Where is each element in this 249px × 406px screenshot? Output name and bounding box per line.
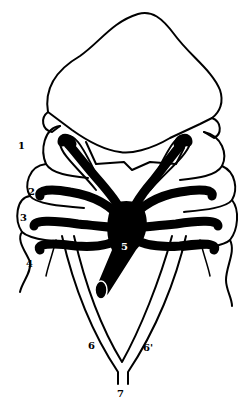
diagram-figure: [0, 0, 249, 406]
label-3: 3: [20, 213, 27, 223]
label-6: 6: [88, 341, 95, 351]
label-7: 7: [117, 389, 124, 399]
left-segment-1: [43, 126, 88, 178]
right-segment-4: [226, 240, 232, 306]
label-2: 2: [28, 187, 35, 197]
label-6-prime: 6': [143, 343, 153, 353]
tube-right-outer: [128, 236, 186, 384]
label-5: 5: [121, 242, 128, 252]
label-1: 1: [18, 141, 25, 151]
head-outline: [47, 13, 221, 153]
vessel-network: [34, 138, 218, 299]
label-4: 4: [26, 259, 33, 269]
